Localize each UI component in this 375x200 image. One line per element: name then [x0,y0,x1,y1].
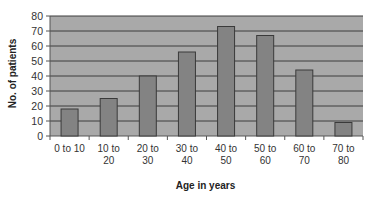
y-tick-label: 60 [31,40,43,52]
bar [61,109,78,136]
x-tick-label: 80 [338,155,350,166]
chart-canvas: 010203040506070800 to 1010 to2020 to3030… [0,0,375,200]
x-tick-label: 60 [260,155,272,166]
x-tick-label: 70 to [332,143,355,154]
bar [335,123,352,137]
y-tick-label: 70 [31,25,43,37]
y-tick-label: 40 [31,70,43,82]
bar [218,27,235,137]
x-tick-label: 40 to [215,143,238,154]
bar [296,70,313,136]
x-tick-label: 20 [103,155,115,166]
x-tick-label: 40 [181,155,193,166]
x-tick-label: 30 to [176,143,199,154]
x-tick-label: 70 [299,155,311,166]
y-tick-label: 0 [37,130,43,142]
x-tick-label: 60 to [293,143,316,154]
y-tick-label: 30 [31,85,43,97]
x-tick-label: 50 [221,155,233,166]
bar [178,52,195,136]
y-axis-label: No. of patients [7,24,18,124]
x-tick-label: 20 to [137,143,160,154]
bar [139,76,156,136]
bar-chart: 010203040506070800 to 1010 to2020 to3030… [0,0,375,200]
x-tick-label: 50 to [254,143,277,154]
bar [100,99,117,137]
y-tick-label: 80 [31,10,43,22]
x-tick-label: 10 to [98,143,121,154]
bar [257,36,274,137]
y-tick-label: 20 [31,100,43,112]
x-axis-label: Age in years [0,180,375,191]
y-tick-label: 50 [31,55,43,67]
x-tick-label: 0 to 10 [54,143,85,154]
y-tick-label: 10 [31,115,43,127]
x-tick-label: 30 [142,155,154,166]
